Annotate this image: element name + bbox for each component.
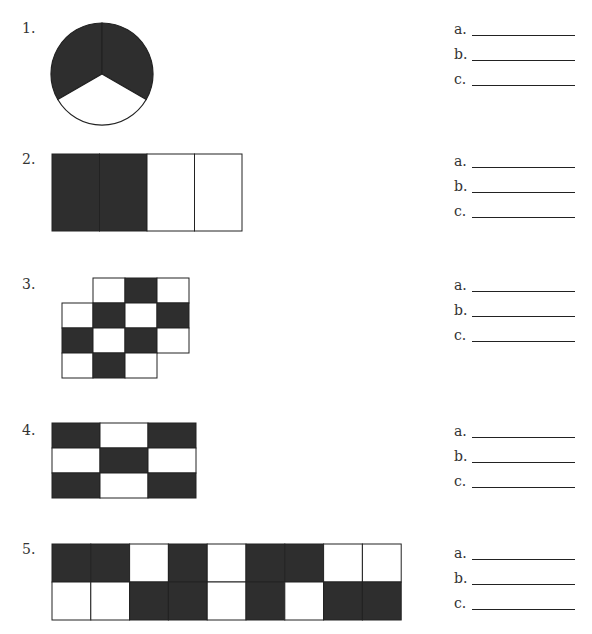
fraction-rectangle-4-parts [51, 153, 245, 233]
answer-blank[interactable] [472, 316, 575, 317]
answer-label: c. [454, 473, 466, 489]
answer-label: c. [454, 71, 466, 87]
answer-blank[interactable] [472, 192, 575, 193]
problem-5-number: 5. [22, 541, 35, 557]
answer-blank[interactable] [472, 559, 575, 560]
answer-label: a. [454, 423, 467, 439]
answer-label: b. [454, 302, 467, 318]
answer-blank[interactable] [472, 341, 575, 342]
fraction-circle [50, 20, 156, 128]
answer-blank[interactable] [472, 462, 575, 463]
answer-label: a. [454, 277, 467, 293]
answer-blank[interactable] [472, 217, 575, 218]
answer-label: a. [454, 153, 467, 169]
answer-label: c. [454, 595, 466, 611]
answers-problem-5: a. b. c. [454, 545, 576, 620]
answer-blank[interactable] [472, 35, 575, 36]
answer-blank[interactable] [472, 584, 575, 585]
answer-blank[interactable] [472, 85, 575, 86]
fraction-grid-3x3 [51, 422, 197, 500]
answer-label: a. [454, 21, 467, 37]
answers-problem-4: a. b. c. [454, 423, 576, 498]
answer-blank[interactable] [472, 167, 575, 168]
answer-label: a. [454, 545, 467, 561]
answer-label: c. [454, 327, 466, 343]
problem-4-number: 4. [22, 422, 35, 438]
answers-problem-2: a. b. c. [454, 153, 576, 228]
answer-blank[interactable] [472, 487, 575, 488]
answer-label: b. [454, 178, 467, 194]
fraction-irregular-grid [61, 277, 191, 379]
answers-problem-1: a. b. c. [454, 21, 576, 96]
problem-2-number: 2. [22, 151, 35, 167]
answer-label: b. [454, 448, 467, 464]
fraction-grid-2x9 [51, 543, 403, 623]
answer-blank[interactable] [472, 609, 575, 610]
answer-label: b. [454, 570, 467, 586]
answer-label: b. [454, 46, 467, 62]
problem-1-number: 1. [22, 20, 35, 36]
answers-problem-3: a. b. c. [454, 277, 576, 352]
answer-blank[interactable] [472, 60, 575, 61]
answer-blank[interactable] [472, 291, 575, 292]
problem-3-number: 3. [22, 276, 35, 292]
answer-blank[interactable] [472, 437, 575, 438]
answer-label: c. [454, 203, 466, 219]
